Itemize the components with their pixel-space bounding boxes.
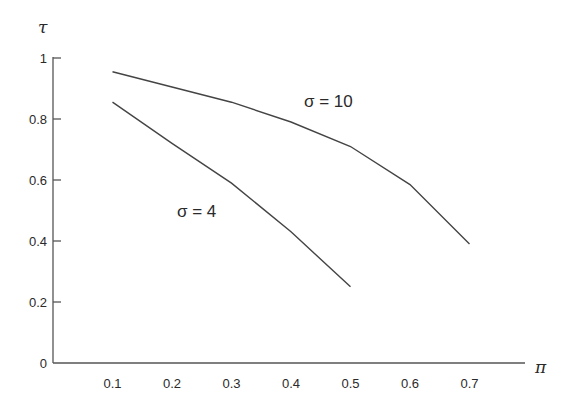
series-line-1 bbox=[113, 102, 351, 287]
series-label-sigma-10: σ = 10 bbox=[304, 92, 353, 111]
line-chart: 00.20.40.60.81 0.10.20.30.40.50.60.7 τ π… bbox=[0, 0, 565, 400]
x-axis-title: π bbox=[534, 357, 547, 377]
series-line-0 bbox=[113, 72, 470, 244]
x-axis: 0.10.20.30.40.50.60.7 bbox=[53, 363, 525, 391]
y-axis: 00.20.40.60.81 bbox=[29, 51, 61, 371]
x-tick-label: 0.6 bbox=[401, 376, 419, 391]
x-tick-label: 0.2 bbox=[163, 376, 181, 391]
y-axis-title: τ bbox=[38, 17, 48, 37]
x-tick-label: 0.4 bbox=[282, 376, 300, 391]
y-tick-label: 0.4 bbox=[29, 234, 47, 249]
x-tick-label: 0.7 bbox=[460, 376, 478, 391]
y-tick-label: 0.8 bbox=[29, 112, 47, 127]
y-tick-label: 1 bbox=[40, 51, 47, 66]
y-tick-label: 0 bbox=[40, 356, 47, 371]
x-tick-label: 0.3 bbox=[222, 376, 240, 391]
y-tick-label: 0.6 bbox=[29, 173, 47, 188]
series-group bbox=[113, 72, 470, 287]
x-tick-label: 0.1 bbox=[103, 376, 121, 391]
series-label-sigma-4: σ = 4 bbox=[177, 202, 216, 221]
x-tick-label: 0.5 bbox=[341, 376, 359, 391]
y-tick-label: 0.2 bbox=[29, 295, 47, 310]
